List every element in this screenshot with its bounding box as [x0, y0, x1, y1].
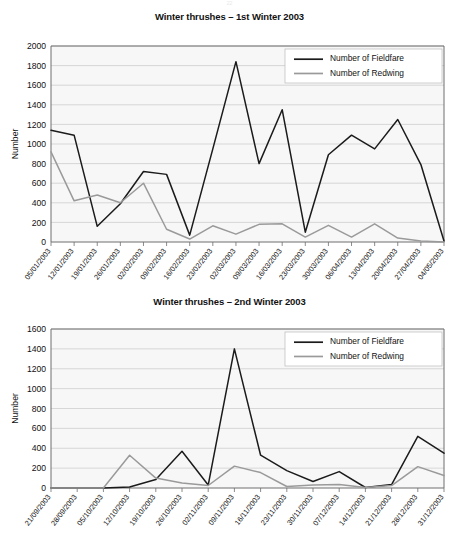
y-axis-tick-label: 1000	[27, 384, 46, 394]
y-axis-tick-label: 200	[32, 463, 47, 473]
y-axis-tick-label: 0	[41, 483, 46, 493]
y-axis-tick-label: 2000	[27, 41, 46, 51]
y-axis-title: Number	[10, 393, 20, 424]
y-axis-tick-label: 600	[32, 423, 47, 433]
chart-1-title: Winter thrushes – 1st Winter 2003	[0, 0, 459, 22]
y-axis-tick-label: 1400	[27, 100, 46, 110]
y-axis-tick-label: 1400	[27, 344, 46, 354]
chart-2-title: Winter thrushes – 2nd Winter 2003	[0, 292, 459, 307]
y-axis-tick-label: 800	[32, 159, 47, 169]
y-axis-tick-label: 800	[32, 404, 47, 414]
y-axis-tick-label: 0	[41, 237, 46, 247]
chart-2-plot: 0200400600800100012001400160021/09/20032…	[0, 307, 459, 532]
chart-2-container: Winter thrushes – 2nd Winter 2003 020040…	[0, 292, 459, 535]
x-axis-tick-label: 16/11/2003	[233, 493, 263, 527]
x-axis-tick-label: 23/11/2003	[259, 493, 289, 527]
y-axis-tick-label: 200	[32, 218, 47, 228]
y-axis-tick-label: 1600	[27, 324, 46, 334]
y-axis-tick-label: 1200	[27, 364, 46, 374]
y-axis-tick-label: 1200	[27, 120, 46, 130]
x-axis-tick-label: 26/10/2003	[154, 493, 184, 528]
chart-2-svg: 0200400600800100012001400160021/09/20032…	[0, 307, 459, 532]
chart-1-container: Winter thrushes – 1st Winter 2003 020040…	[0, 0, 459, 292]
chart-1-svg: 020040060080010001200140016001800200005/…	[0, 22, 459, 287]
y-axis-tick-label: 400	[32, 198, 47, 208]
y-axis-tick-label: 600	[32, 178, 47, 188]
chart-1-plot: 020040060080010001200140016001800200005/…	[0, 22, 459, 287]
legend-label-fieldfare: Number of Fieldfare	[330, 53, 404, 63]
figure-page: 22 Winter thrushes – 1st Winter 2003 020…	[0, 0, 459, 535]
legend-label-redwing: Number of Redwing	[330, 68, 404, 78]
legend-label-fieldfare: Number of Fieldfare	[330, 336, 404, 346]
y-axis-tick-label: 400	[32, 443, 47, 453]
y-axis-tick-label: 1800	[27, 61, 46, 71]
y-axis-tick-label: 1000	[27, 139, 46, 149]
legend-label-redwing: Number of Redwing	[330, 351, 404, 361]
x-axis-tick-label: 31/12/2003	[416, 493, 446, 528]
y-axis-tick-label: 1600	[27, 80, 46, 90]
y-axis-title: Number	[10, 129, 20, 160]
